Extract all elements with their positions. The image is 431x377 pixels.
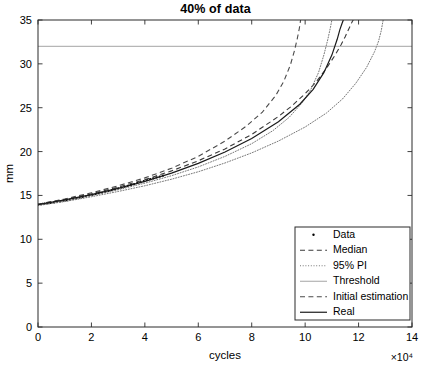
x-axis-label: cycles xyxy=(209,349,241,361)
x-tick-label: 8 xyxy=(249,331,255,343)
series-median xyxy=(38,20,353,204)
y-axis-label: mm xyxy=(3,164,15,183)
x-tick-label: 6 xyxy=(195,331,201,343)
legend-label: Threshold xyxy=(333,274,380,286)
figure: 40% of data 0246810121405101520253035cyc… xyxy=(0,0,431,377)
series-pi-upper xyxy=(38,20,383,206)
x-axis-exponent: ×10⁴ xyxy=(391,351,413,363)
legend-marker-dot xyxy=(312,234,314,236)
x-tick-label: 0 xyxy=(35,331,41,343)
x-tick-label: 12 xyxy=(352,331,364,343)
legend-label: Data xyxy=(333,228,355,240)
y-tick-label: 20 xyxy=(20,146,32,158)
x-tick-label: 14 xyxy=(406,331,418,343)
y-tick-label: 25 xyxy=(20,102,32,114)
legend-label: Initial estimation xyxy=(333,290,408,302)
y-tick-label: 10 xyxy=(20,233,32,245)
x-tick-label: 4 xyxy=(142,331,148,343)
y-tick-label: 35 xyxy=(20,14,32,26)
x-tick-label: 10 xyxy=(299,331,311,343)
chart-canvas: 0246810121405101520253035cyclesmm×10⁴Dat… xyxy=(0,0,431,377)
legend: DataMedian95% PIThresholdInitial estimat… xyxy=(295,227,410,320)
legend-label: 95% PI xyxy=(333,259,367,271)
series-pi-lower xyxy=(38,20,332,205)
series-real xyxy=(38,20,343,205)
y-tick-label: 0 xyxy=(26,321,32,333)
series-initial-estimation xyxy=(38,20,301,204)
y-tick-label: 5 xyxy=(26,277,32,289)
legend-label: Median xyxy=(333,243,368,255)
plot-area xyxy=(37,20,412,206)
x-tick-label: 2 xyxy=(88,331,94,343)
y-tick-label: 15 xyxy=(20,189,32,201)
y-tick-label: 30 xyxy=(20,58,32,70)
legend-label: Real xyxy=(333,305,355,317)
